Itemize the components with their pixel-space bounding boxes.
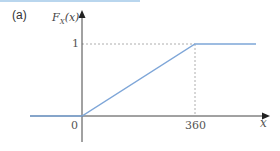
y-axis-arrow-icon bbox=[79, 10, 86, 18]
y-tick-1: 1 bbox=[72, 37, 79, 50]
panel-label: (a) bbox=[12, 8, 27, 22]
x-axis-label: x bbox=[260, 116, 267, 130]
cdf-chart bbox=[0, 0, 280, 151]
cdf-curve bbox=[30, 44, 256, 116]
y-axis-label-arg: (x) bbox=[65, 11, 80, 24]
y-axis-label: FX(x) bbox=[52, 11, 79, 26]
x-tick-360: 360 bbox=[185, 119, 206, 132]
x-tick-0: 0 bbox=[71, 119, 78, 132]
y-axis-label-main: F bbox=[52, 11, 60, 24]
